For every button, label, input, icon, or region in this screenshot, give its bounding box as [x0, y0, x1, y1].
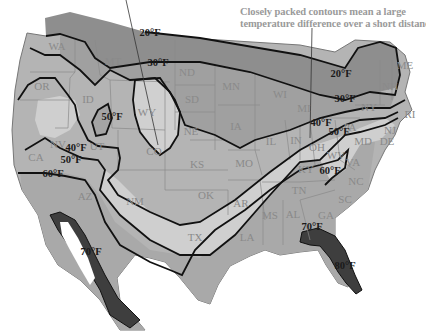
- caption-line-2: temperature difference over a short dist…: [240, 18, 426, 30]
- state-label-tn: TN: [292, 184, 307, 196]
- isotherm-label: 50°F: [328, 126, 349, 137]
- state-label-ny: NY: [361, 101, 377, 113]
- state-label-ga: GA: [318, 209, 334, 221]
- state-label-ky: KY: [298, 163, 314, 175]
- isotherm-label: 50°F: [60, 154, 81, 165]
- isotherm-map: Closely packed contours mean a large tem…: [0, 0, 426, 334]
- state-label-ca: CA: [28, 151, 43, 163]
- isotherm-label: 70°F: [80, 246, 101, 257]
- state-label-oh: OH: [309, 141, 325, 153]
- state-label-wi: WI: [273, 88, 287, 100]
- state-label-wv: WV: [327, 149, 345, 161]
- state-label-wy: WY: [138, 106, 156, 118]
- state-label-ks: KS: [190, 158, 204, 170]
- state-label-in: IN: [290, 134, 302, 146]
- state-label-la: LA: [240, 231, 255, 243]
- state-label-mt: MT: [105, 55, 122, 67]
- state-label-nh: NH: [382, 80, 398, 92]
- isotherm-label: 30°F: [334, 93, 355, 104]
- state-label-nd: ND: [179, 66, 195, 78]
- isotherm-label: 20°F: [330, 68, 351, 79]
- isotherm-label: 80°F: [334, 260, 355, 271]
- state-label-ok: OK: [198, 189, 214, 201]
- state-label-tx: TX: [188, 231, 203, 243]
- state-label-mi: MI: [297, 102, 310, 114]
- state-label-me: ME: [397, 59, 414, 71]
- isotherm-label: 40°F: [65, 142, 86, 153]
- state-label-il: IL: [266, 135, 276, 147]
- state-label-va: VA: [346, 156, 360, 168]
- caption-line-1: Closely packed contours mean a large: [240, 6, 426, 18]
- state-label-nm: NM: [126, 195, 144, 207]
- state-label-ri: RI: [405, 108, 416, 120]
- isotherm-label: 50°F: [101, 111, 122, 122]
- state-label-or: OR: [34, 80, 49, 92]
- state-label-sd: SD: [185, 93, 199, 105]
- state-label-ia: IA: [230, 120, 242, 132]
- state-label-id: ID: [82, 93, 94, 105]
- state-label-az: AZ: [78, 190, 93, 202]
- state-label-md: MD: [354, 135, 372, 147]
- state-label-sc: SC: [338, 193, 351, 205]
- caption-text: Closely packed contours mean a large tem…: [240, 6, 426, 30]
- state-label-wa: WA: [48, 40, 65, 52]
- isotherm-label: 60°F: [42, 168, 63, 179]
- state-label-mn: MN: [222, 80, 240, 92]
- state-label-mo: MO: [235, 157, 253, 169]
- isotherm-label: 20°F: [139, 27, 160, 38]
- state-label-nv: NV: [50, 138, 66, 150]
- state-label-ut: UT: [90, 140, 105, 152]
- state-label-ne: NE: [184, 125, 199, 137]
- state-label-ms: MS: [262, 209, 278, 221]
- state-label-nc: NC: [348, 175, 363, 187]
- state-label-co: CO: [146, 145, 161, 157]
- state-label-ar: AR: [233, 197, 248, 209]
- isotherm-label: 60°F: [319, 165, 340, 176]
- state-label-al: AL: [286, 208, 301, 220]
- isotherm-label: 70°F: [301, 221, 322, 232]
- state-label-de: DE: [380, 135, 395, 147]
- isotherm-label: 30°F: [147, 57, 168, 68]
